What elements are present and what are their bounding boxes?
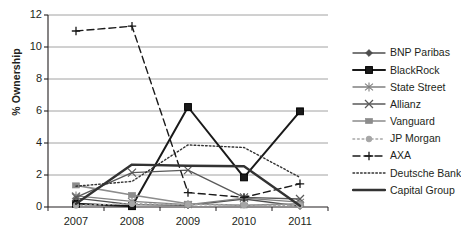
- data-point-marker: [128, 192, 135, 197]
- data-point-marker: [366, 136, 372, 142]
- legend-item-blackrock[interactable]: BlackRock: [352, 61, 461, 78]
- data-point-marker: [184, 188, 192, 196]
- data-point-marker: [129, 201, 135, 207]
- data-point-marker: [241, 174, 248, 181]
- legend-item-jp-morgan[interactable]: JP Morgan: [352, 130, 461, 147]
- legend-item-axa[interactable]: AXA: [352, 147, 461, 164]
- legend-label: Vanguard: [390, 116, 435, 127]
- legend-swatch: [352, 114, 386, 128]
- legend-item-state-street[interactable]: State Street: [352, 78, 461, 95]
- legend-swatch: [352, 46, 386, 60]
- data-point-marker: [365, 152, 373, 160]
- series-line: [76, 26, 300, 197]
- legend-label: Allianz: [390, 99, 421, 110]
- legend-label: Capital Group: [390, 185, 455, 196]
- legend-item-bnp-paribas[interactable]: BNP Paribas: [352, 44, 461, 61]
- data-point-marker: [366, 49, 373, 56]
- legend-label: AXA: [390, 150, 411, 161]
- data-point-marker: [72, 27, 80, 35]
- data-point-marker: [366, 66, 373, 73]
- data-point-marker: [296, 180, 304, 188]
- legend-swatch: [352, 132, 386, 146]
- legend-label: JP Morgan: [390, 133, 441, 144]
- legend-item-deutsche-bank[interactable]: Deutsche Bank: [352, 164, 461, 181]
- data-point-marker: [297, 108, 304, 115]
- data-point-marker: [72, 183, 79, 188]
- data-point-marker: [365, 119, 372, 124]
- data-point-marker: [185, 104, 192, 111]
- legend-label: BlackRock: [390, 65, 440, 76]
- data-point-marker: [241, 202, 247, 208]
- legend-item-allianz[interactable]: Allianz: [352, 96, 461, 113]
- chart-legend: BNP ParibasBlackRockState StreetAllianzV…: [352, 44, 461, 199]
- legend-swatch: [352, 149, 386, 163]
- legend-swatch: [352, 183, 386, 197]
- legend-label: State Street: [390, 82, 445, 93]
- legend-swatch: [352, 97, 386, 111]
- legend-swatch: [352, 166, 386, 180]
- legend-swatch: [352, 63, 386, 77]
- legend-label: Deutsche Bank: [390, 168, 461, 179]
- legend-label: BNP Paribas: [390, 47, 450, 58]
- legend-swatch: [352, 80, 386, 94]
- legend-item-capital-group[interactable]: Capital Group: [352, 182, 461, 199]
- legend-item-vanguard[interactable]: Vanguard: [352, 113, 461, 130]
- data-point-marker: [185, 202, 191, 208]
- data-point-marker: [128, 22, 136, 30]
